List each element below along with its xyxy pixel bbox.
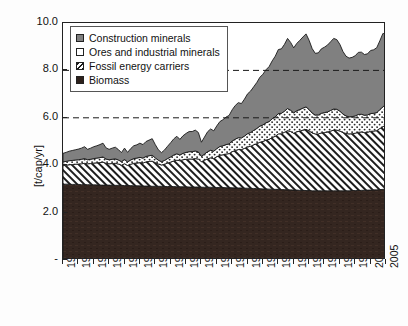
x-tick-mark [108, 259, 109, 264]
x-tick-mark [323, 259, 324, 264]
x-tick-mark [293, 259, 294, 264]
x-tick-mark [262, 259, 263, 264]
biomass-swatch-icon [76, 76, 84, 84]
x-tick-mark [277, 259, 278, 264]
y-tick-mark [62, 212, 67, 213]
x-tick-mark [231, 259, 232, 264]
legend-item: Biomass [76, 73, 220, 87]
x-tick-mark [370, 259, 371, 264]
x-tick-mark [339, 259, 340, 264]
ores-swatch-icon [76, 48, 84, 56]
x-tick-mark [354, 259, 355, 264]
x-tick-mark [247, 259, 248, 264]
x-tick-mark [308, 259, 309, 264]
x-tick-mark [93, 259, 94, 264]
construction-swatch-icon [76, 34, 84, 42]
legend-item: Fossil energy carriers [76, 59, 220, 73]
x-tick-mark [139, 259, 140, 264]
x-tick-mark [170, 259, 171, 264]
legend-label: Fossil energy carriers [89, 61, 189, 72]
x-tick-mark [385, 259, 386, 264]
chart-root: [t/cap/yr] -2.04.06.08.010.0 19001905191… [0, 0, 408, 326]
area-series [63, 184, 385, 259]
x-tick-label: 2005 [389, 245, 400, 268]
legend-label: Ores and industrial minerals [89, 47, 220, 58]
x-tick-mark [154, 259, 155, 264]
legend-item: Ores and industrial minerals [76, 45, 220, 59]
y-tick-mark [62, 164, 67, 165]
x-tick-mark [200, 259, 201, 264]
y-tick-mark [62, 259, 67, 260]
chart-legend: Construction mineralsOres and industrial… [70, 26, 228, 92]
x-tick-mark [185, 259, 186, 264]
x-tick-mark [77, 259, 78, 264]
legend-label: Biomass [89, 75, 129, 86]
fossil-swatch-icon [76, 62, 84, 70]
legend-item: Construction minerals [76, 31, 220, 45]
y-tick-mark [62, 117, 67, 118]
y-tick-mark [62, 69, 67, 70]
legend-label: Construction minerals [89, 33, 191, 44]
x-tick-mark [124, 259, 125, 264]
y-tick-mark [62, 22, 67, 23]
x-tick-mark [216, 259, 217, 264]
